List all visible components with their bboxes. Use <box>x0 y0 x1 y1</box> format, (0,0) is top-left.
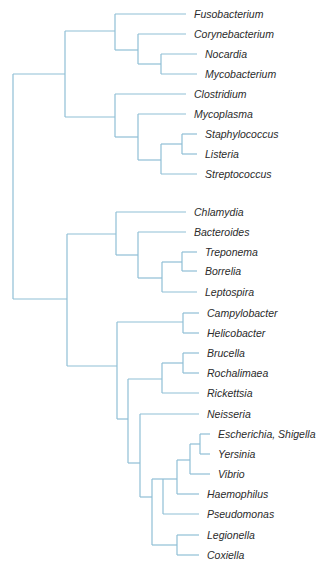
tree-branches <box>13 14 210 555</box>
taxon-label: Pseudomonas <box>207 508 275 520</box>
taxon-label: Coxiella <box>207 549 245 561</box>
taxon-label: Borrelia <box>205 265 241 277</box>
taxon-label: Brucella <box>207 347 245 359</box>
taxon-label: Bacteroides <box>194 226 250 238</box>
taxon-label: Rochalimaea <box>207 367 268 379</box>
taxon-label: Neisseria <box>207 408 251 420</box>
taxon-label: Yersinia <box>218 448 256 460</box>
taxon-label: Fusobacterium <box>194 8 264 20</box>
taxon-label: Mycobacterium <box>205 68 276 80</box>
taxon-label: Leptospira <box>205 286 254 298</box>
taxon-label: Nocardia <box>205 48 247 60</box>
taxon-label: Clostridium <box>194 88 247 100</box>
taxon-label: Vibrio <box>218 468 245 480</box>
taxon-label: Streptococcus <box>205 168 272 180</box>
taxon-label: Corynebacterium <box>194 28 274 40</box>
taxon-label: Helicobacter <box>207 327 266 339</box>
taxon-label: Listeria <box>205 148 239 160</box>
taxon-label: Haemophilus <box>207 488 269 500</box>
taxon-labels: FusobacteriumCorynebacteriumNocardiaMyco… <box>194 8 316 561</box>
taxon-label: Staphylococcus <box>205 128 279 140</box>
taxon-label: Chlamydia <box>194 206 244 218</box>
taxon-label: Treponema <box>205 246 258 258</box>
taxon-label: Campylobacter <box>207 307 278 319</box>
taxon-label: Legionella <box>207 529 255 541</box>
taxon-label: Rickettsia <box>207 387 253 399</box>
taxon-label: Escherichia, Shigella <box>218 428 316 440</box>
taxon-label: Mycoplasma <box>194 108 253 120</box>
phylogenetic-tree: FusobacteriumCorynebacteriumNocardiaMyco… <box>0 0 324 566</box>
